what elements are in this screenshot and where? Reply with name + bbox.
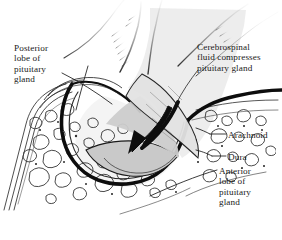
label-posterior-lobe: Posterior lobe of pituitary gland: [14, 43, 86, 85]
label-cerebrospinal-fluid: Cerebrospinal fluid compresses pituitary…: [197, 42, 281, 73]
label-anterior-lobe: Anterior lobe of pituitary gland: [219, 166, 282, 208]
label-arachnoid: Arachnoid: [228, 130, 268, 140]
label-dura: Dura: [228, 152, 247, 162]
